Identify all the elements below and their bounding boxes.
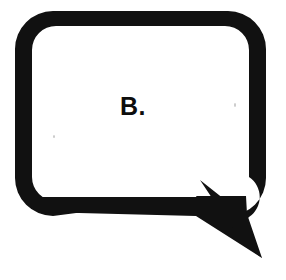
- bubble-label-text: B.: [120, 94, 146, 119]
- scan-speck-left: [53, 135, 55, 138]
- speech-bubble-graphic: [0, 0, 286, 280]
- illustration-canvas: B.: [0, 0, 286, 280]
- scan-speck-right: [234, 103, 236, 107]
- bubble-label: B.: [0, 94, 286, 119]
